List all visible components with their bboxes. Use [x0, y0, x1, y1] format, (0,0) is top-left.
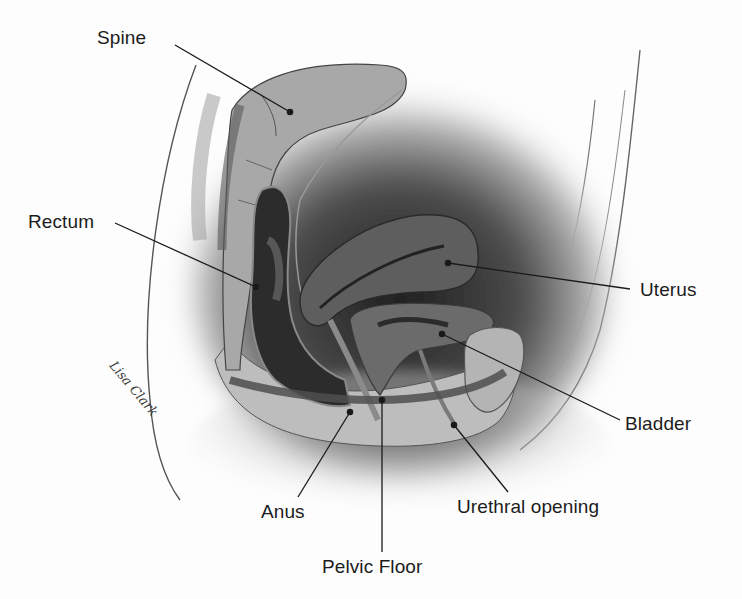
pelvis-illustration: [0, 0, 742, 599]
leader-dot-rectum: [253, 284, 258, 289]
leader-dot-anus: [347, 409, 352, 414]
leader-dot-urethral-opening: [451, 422, 456, 427]
label-anus: Anus: [261, 502, 305, 521]
leader-dot-pelvic-floor: [379, 397, 384, 402]
leader-dot-bladder: [439, 331, 444, 336]
label-bladder: Bladder: [625, 414, 691, 433]
back-contour: [147, 65, 196, 500]
anatomy-diagram: Spine Rectum Uterus Bladder Anus Pelvic …: [0, 0, 742, 599]
leader-dot-spine: [287, 109, 292, 114]
leader-dot-uterus: [445, 260, 450, 265]
label-rectum: Rectum: [28, 212, 94, 231]
label-urethral-opening: Urethral opening: [457, 497, 599, 516]
label-pelvic-floor: Pelvic Floor: [322, 557, 422, 576]
label-uterus: Uterus: [640, 280, 697, 299]
label-spine: Spine: [97, 28, 146, 47]
